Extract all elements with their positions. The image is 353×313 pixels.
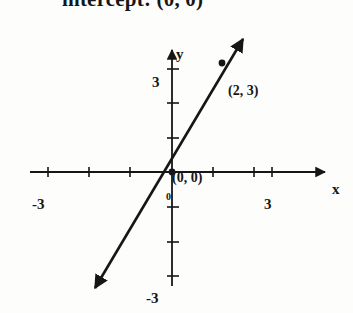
- point-marker-2-3: [219, 60, 226, 67]
- point-label-origin: (0, 0): [172, 170, 202, 186]
- y-axis-label: y: [176, 46, 184, 63]
- x-axis-label: x: [332, 181, 340, 198]
- figure-page: intercept: (0, 0): [0, 0, 353, 313]
- point-label-2-3: (2, 3): [228, 83, 258, 99]
- page-heading: intercept: (0, 0): [62, 0, 203, 12]
- y-tick-label-3: 3: [152, 74, 160, 91]
- plotted-line: [95, 39, 243, 288]
- x-tick-label-3: 3: [264, 196, 272, 213]
- y-tick-label-negative-3: -3: [146, 290, 159, 307]
- coordinate-graph: y x 3 -3 3 -3 0 (0, 0) (2, 3): [0, 18, 353, 313]
- x-tick-label-negative-3: -3: [32, 196, 45, 213]
- heading-clip: intercept: (0, 0): [0, 0, 353, 17]
- origin-label: 0: [166, 191, 171, 202]
